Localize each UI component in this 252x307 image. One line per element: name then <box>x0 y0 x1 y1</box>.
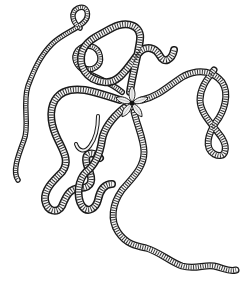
arm-top-loop <box>16 7 88 180</box>
arm-right <box>142 70 226 156</box>
arm-upper <box>81 24 174 92</box>
brittle-star-illustration <box>0 0 252 307</box>
arm-loose-hook <box>76 116 98 150</box>
disc-center-mouth <box>129 100 134 105</box>
